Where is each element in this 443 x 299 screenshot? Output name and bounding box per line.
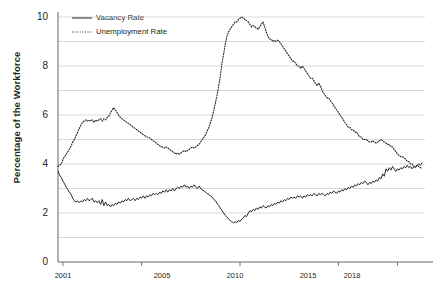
chart-figure: Percentage of the Workforce 10 8 6 4 2 0… (0, 0, 443, 299)
series-line-vacancy-rate (58, 163, 422, 223)
chart-plot-area (0, 0, 443, 299)
series-line-unemployment-rate (58, 17, 422, 169)
